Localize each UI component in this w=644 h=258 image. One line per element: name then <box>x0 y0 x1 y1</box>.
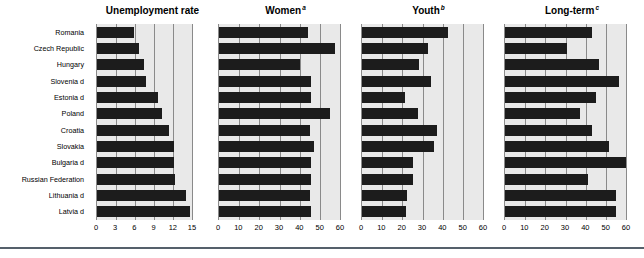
bar-row <box>362 122 483 138</box>
x-axis-tick-label: 10 <box>377 223 385 232</box>
bar <box>362 43 428 54</box>
bar-row <box>505 171 626 187</box>
bar-row <box>219 40 340 56</box>
bar-row <box>97 138 192 154</box>
panel-title-long-term: Long-termc <box>500 1 644 18</box>
panel-title-superscript: a <box>302 4 306 11</box>
x-axis-tick-label: 6 <box>132 223 136 232</box>
bar-row <box>97 73 192 89</box>
bar-row <box>362 40 483 56</box>
x-axis-tick-label: 60 <box>336 223 344 232</box>
bar-row <box>505 73 626 89</box>
bar <box>97 141 174 152</box>
bar-row <box>362 73 483 89</box>
bar-row <box>505 204 626 220</box>
bar <box>505 190 616 201</box>
bar-row <box>362 57 483 73</box>
gridline <box>340 24 341 220</box>
category-label: Slovakia <box>0 138 88 154</box>
category-label: Poland <box>0 106 88 122</box>
bar <box>505 59 599 70</box>
bar <box>97 157 174 168</box>
bar <box>219 190 310 201</box>
bar-row <box>362 138 483 154</box>
bar-row <box>505 122 626 138</box>
bar <box>97 92 158 103</box>
bar-row <box>362 89 483 105</box>
panel-long-term: Long-termc 0102030405060 <box>500 0 644 244</box>
x-axis-unemployment-rate: 03691215 <box>96 220 192 238</box>
bar-row <box>362 171 483 187</box>
panel-title-unemployment-rate: Unemployment rate <box>92 1 214 18</box>
bar-row <box>219 122 340 138</box>
bar <box>219 206 311 217</box>
x-axis-tick-label: 0 <box>94 223 98 232</box>
bar <box>362 206 406 217</box>
bar-row <box>362 155 483 171</box>
bar <box>219 92 311 103</box>
category-label: Croatia <box>0 122 88 138</box>
bar-row <box>219 106 340 122</box>
panel-title-women: Womena <box>214 1 357 18</box>
bar <box>505 125 592 136</box>
bar <box>97 206 190 217</box>
x-axis-tick-label: 50 <box>315 223 323 232</box>
x-axis-tick-label: 30 <box>561 223 569 232</box>
bar-row <box>97 122 192 138</box>
bar-row <box>97 40 192 56</box>
x-axis-tick-label: 40 <box>581 223 589 232</box>
bar <box>219 125 310 136</box>
panel-title-youth: Youthb <box>357 1 500 18</box>
bar <box>362 174 413 185</box>
bar-row <box>97 155 192 171</box>
bar-row <box>505 138 626 154</box>
panel-title-superscript: c <box>595 4 599 11</box>
category-label: Russian Federation <box>0 171 88 187</box>
bar-row <box>505 89 626 105</box>
bar <box>362 59 419 70</box>
bar-row <box>505 187 626 203</box>
bar <box>505 92 596 103</box>
category-label: Czech Republic <box>0 40 88 56</box>
bar <box>505 206 616 217</box>
bar <box>219 157 311 168</box>
bar-row <box>362 106 483 122</box>
panel-row: RomaniaCzech RepublicHungarySlovenia dEs… <box>0 0 644 244</box>
bar-row <box>362 187 483 203</box>
x-axis-tick-label: 30 <box>418 223 426 232</box>
bar-row <box>362 204 483 220</box>
bar-row <box>97 106 192 122</box>
bar-row <box>362 24 483 40</box>
category-label-list: RomaniaCzech RepublicHungarySlovenia dEs… <box>0 24 88 220</box>
bar <box>97 76 146 87</box>
bar <box>362 157 413 168</box>
x-axis-tick-label: 10 <box>520 223 528 232</box>
category-label: Bulgaria d <box>0 155 88 171</box>
panel-title-text: Women <box>265 5 301 16</box>
bars-youth <box>362 24 483 220</box>
bar <box>219 59 300 70</box>
bar <box>505 157 626 168</box>
x-axis-tick-label: 12 <box>169 223 177 232</box>
bar <box>219 27 308 38</box>
bar <box>219 43 335 54</box>
bar <box>219 174 311 185</box>
bar-row <box>219 24 340 40</box>
bar <box>362 76 431 87</box>
bar-row <box>505 106 626 122</box>
bar <box>362 108 418 119</box>
bar-row <box>219 171 340 187</box>
x-axis-tick-label: 40 <box>438 223 446 232</box>
bars-unemployment-rate <box>97 24 192 220</box>
x-axis-tick-label: 50 <box>601 223 609 232</box>
x-axis-tick-label: 0 <box>359 223 363 232</box>
category-label: Hungary <box>0 57 88 73</box>
x-axis-tick-label: 40 <box>295 223 303 232</box>
bar-row <box>219 57 340 73</box>
category-label: Romania <box>0 24 88 40</box>
x-axis-tick-label: 60 <box>479 223 487 232</box>
x-axis-long-term: 0102030405060 <box>504 220 626 238</box>
bar-row <box>505 57 626 73</box>
panel-youth: Youthb 0102030405060 <box>357 0 500 244</box>
bars-long-term <box>505 24 626 220</box>
